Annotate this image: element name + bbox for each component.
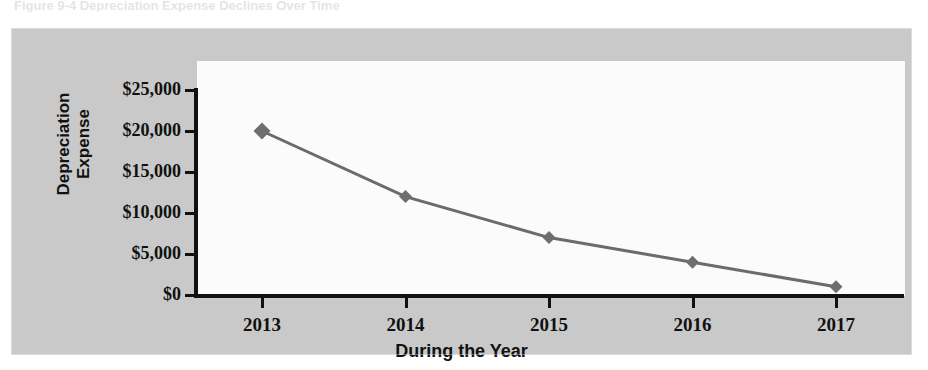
data-point-marker xyxy=(254,123,271,140)
y-axis-title: DepreciationExpense xyxy=(54,49,94,239)
x-axis-title: During the Year xyxy=(11,341,912,362)
data-series-line xyxy=(11,28,912,355)
data-point-marker xyxy=(543,231,556,244)
y-axis-title-line: Expense xyxy=(74,49,94,239)
chart-frame: $25,000$20,000$15,000$10,000$5,000$0 201… xyxy=(11,28,912,355)
y-axis-title-line: Depreciation xyxy=(54,49,74,239)
data-point-marker xyxy=(399,190,412,203)
scan-title-remnant: Figure 9-4 Depreciation Expense Declines… xyxy=(14,0,534,12)
data-point-marker xyxy=(686,256,699,269)
data-point-marker xyxy=(830,280,843,293)
series-line xyxy=(262,131,836,287)
